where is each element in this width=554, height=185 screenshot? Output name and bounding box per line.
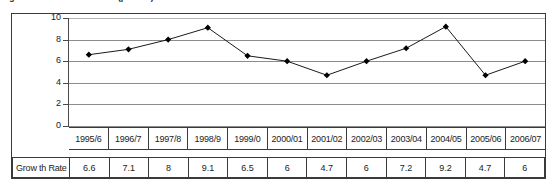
y-tick-10 xyxy=(63,18,68,19)
data-point-2002/03 xyxy=(363,58,369,64)
year-cell-1995/6: 1995/6 xyxy=(69,128,109,149)
data-point-2001/02 xyxy=(324,72,330,78)
y-axis-label-2: 2 xyxy=(39,99,61,108)
year-cell-2003/04: 2003/04 xyxy=(387,128,427,149)
value-cell-2000/01: 6 xyxy=(268,158,308,177)
data-point-2000/01 xyxy=(284,58,290,64)
year-cell-1998/9: 1998/9 xyxy=(188,128,228,149)
year-cell-2001/02: 2001/02 xyxy=(308,128,348,149)
figure-container: Figure 3.1: GDP Growth Rate (percent) 02… xyxy=(0,0,554,185)
y-axis-label-8: 8 xyxy=(39,35,61,44)
value-cell-2002/03: 6 xyxy=(347,158,387,177)
y-tick-2 xyxy=(63,104,68,105)
data-table-row: Grow th Rate 6.67.189.16.564.767.29.24.7… xyxy=(12,157,545,178)
year-header-row: 1995/61996/71997/81998/91999/02000/01200… xyxy=(69,127,545,150)
y-tick-6 xyxy=(63,61,68,62)
data-point-1997/8 xyxy=(165,37,171,43)
line-series-growth-rate xyxy=(69,18,545,126)
y-axis-label-4: 4 xyxy=(39,78,61,87)
data-point-1999/0 xyxy=(244,53,250,59)
data-point-1998/9 xyxy=(205,25,211,31)
year-cell-2005/06: 2005/06 xyxy=(467,128,507,149)
row-header-label: Grow th Rate xyxy=(13,158,70,177)
year-cell-2000/01: 2000/01 xyxy=(268,128,308,149)
data-point-2006/07 xyxy=(522,58,528,64)
value-cell-2001/02: 4.7 xyxy=(307,158,347,177)
value-cell-2006/07: 6 xyxy=(505,158,544,177)
value-cell-2003/04: 7.2 xyxy=(387,158,427,177)
value-cell-2004/05: 9.2 xyxy=(426,158,466,177)
value-cell-1998/9: 9.1 xyxy=(189,158,229,177)
value-cell-2005/06: 4.7 xyxy=(466,158,506,177)
year-cell-2006/07: 2006/07 xyxy=(506,128,545,149)
data-point-1995/6 xyxy=(86,52,92,58)
y-tick-4 xyxy=(63,83,68,84)
year-cell-1999/0: 1999/0 xyxy=(228,128,268,149)
y-tick-8 xyxy=(63,40,68,41)
value-cell-1997/8: 8 xyxy=(149,158,189,177)
y-tick-0 xyxy=(63,126,68,127)
year-cell-2004/05: 2004/05 xyxy=(427,128,467,149)
value-cell-1999/0: 6.5 xyxy=(228,158,268,177)
year-cell-1996/7: 1996/7 xyxy=(109,128,149,149)
value-cell-1995/6: 6.6 xyxy=(70,158,110,177)
value-cell-1996/7: 7.1 xyxy=(110,158,150,177)
data-point-1996/7 xyxy=(125,46,131,52)
y-axis-label-10: 10 xyxy=(39,13,61,22)
year-cell-2002/03: 2002/03 xyxy=(347,128,387,149)
data-point-2003/04 xyxy=(403,45,409,51)
year-cell-1997/8: 1997/8 xyxy=(149,128,189,149)
y-axis-label-0: 0 xyxy=(39,121,61,130)
y-axis-label-6: 6 xyxy=(39,56,61,65)
